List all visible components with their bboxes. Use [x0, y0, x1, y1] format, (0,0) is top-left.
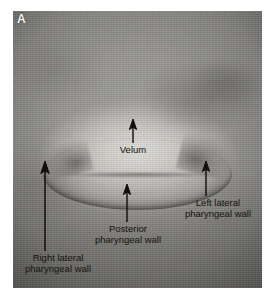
endoscopic-image — [13, 11, 262, 288]
panel-label: A — [17, 12, 26, 26]
image-grain-texture — [13, 11, 262, 288]
figure-page: A — [0, 0, 275, 299]
